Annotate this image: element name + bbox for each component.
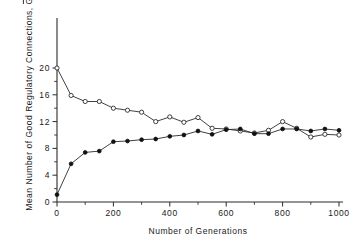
data-point-filled-circle [168,134,172,138]
y-tick-label: 16 [39,90,50,100]
data-point-filled-circle [196,129,200,133]
x-tick-label: 400 [162,208,178,218]
data-point-open-circle [55,66,59,70]
y-tick-label: 4 [45,170,50,180]
data-point-open-circle [69,93,73,97]
data-point-filled-circle [323,127,327,131]
y-tick-label: 8 [45,143,50,153]
data-point-open-circle [337,133,341,137]
chart-plot-area: 04812162002004006008001000 Number of Gen… [0,0,363,241]
data-point-open-circle [309,135,313,139]
chart-series-layer [55,66,341,197]
data-point-open-circle [210,126,214,130]
data-point-filled-circle [238,127,242,131]
data-point-filled-circle [97,149,101,153]
data-point-open-circle [323,132,327,136]
data-point-filled-circle [295,127,299,131]
data-point-filled-circle [55,193,59,197]
x-tick-label: 0 [54,208,59,218]
data-point-filled-circle [253,132,257,136]
x-tick-label: 200 [105,208,121,218]
data-point-open-circle [168,115,172,119]
data-point-filled-circle [69,162,73,166]
chart-tick-labels: 04812162002004006008001000 [39,63,349,218]
series-markers-increasing-filled-circles [55,127,341,196]
data-point-filled-circle [224,128,228,132]
y-axis-title-group: Mean Number of Good Regulatory Connectio… [23,0,34,211]
data-point-open-circle [125,108,129,112]
data-point-filled-circle [281,127,285,131]
y-tick-label: 0 [45,197,50,207]
data-point-open-circle [154,120,158,124]
data-point-open-circle [97,99,101,103]
data-point-filled-circle [154,137,158,141]
x-axis-title: Number of Generations [149,226,248,236]
y-tick-label: 20 [39,63,50,73]
data-point-open-circle [182,120,186,124]
data-point-filled-circle [140,138,144,142]
x-tick-label: 1000 [328,208,349,218]
data-point-filled-circle [126,139,130,143]
x-tick-label: 600 [218,208,234,218]
data-point-filled-circle [210,132,214,136]
data-point-filled-circle [182,133,186,137]
data-point-filled-circle [337,128,341,132]
data-point-filled-circle [112,140,116,144]
chart-figure: 04812162002004006008001000 Number of Gen… [0,0,363,241]
y-tick-label: 12 [39,117,50,127]
data-point-open-circle [196,115,200,119]
data-point-open-circle [140,110,144,114]
data-point-filled-circle [267,132,271,136]
y-axis-title: Mean Number of Good Regulatory Connectio… [24,0,34,211]
data-point-filled-circle [83,151,87,155]
chart-axes [53,18,344,207]
data-point-open-circle [281,120,285,124]
x-tick-label: 800 [275,208,291,218]
data-point-open-circle [111,106,115,110]
data-point-open-circle [83,99,87,103]
data-point-filled-circle [309,129,313,133]
series-line-increasing-filled-circles [57,129,339,195]
